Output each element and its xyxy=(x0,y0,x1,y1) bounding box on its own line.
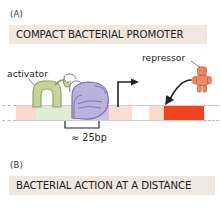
repressor-label: repressor xyxy=(142,52,185,63)
dna-dashed-line-left-bottom xyxy=(2,120,16,121)
dna-segment-upstream-peach xyxy=(16,106,36,120)
panel-b-banner: BACTERIAL ACTION AT A DISTANCE xyxy=(9,176,215,195)
dna-segment-gene-block-red xyxy=(164,106,204,120)
panel-b-banner-text: BACTERIAL ACTION AT A DISTANCE xyxy=(16,180,191,191)
panel-a-letter: (A) xyxy=(10,9,23,19)
basepair-spacing-label: ≈ 25bp xyxy=(59,132,119,143)
rna-polymerase-icon xyxy=(58,72,114,122)
transcription-start-arrow xyxy=(116,78,142,108)
dna-segment-operator-peach xyxy=(149,106,164,120)
dna-segment-white-gap xyxy=(132,106,149,120)
dna-dashed-line-right-top xyxy=(204,105,219,106)
promoter-diagram: activator repressor xyxy=(0,48,221,152)
basepair-bracket xyxy=(64,120,100,130)
panel-a-banner: COMPACT BACTERIAL PROMOTER xyxy=(9,25,207,44)
dna-segment-downstream-peach xyxy=(121,106,132,120)
figure-root: (A) COMPACT BACTERIAL PROMOTER activator xyxy=(0,0,221,209)
panel-b-letter: (B) xyxy=(10,160,23,170)
dna-dashed-line-left-top xyxy=(2,105,16,106)
dna-dashed-line-right-bottom xyxy=(204,120,219,121)
panel-a-banner-text: COMPACT BACTERIAL PROMOTER xyxy=(16,29,183,40)
repressor-protein-icon xyxy=(192,66,212,93)
repressor-action-arrow xyxy=(156,77,194,107)
